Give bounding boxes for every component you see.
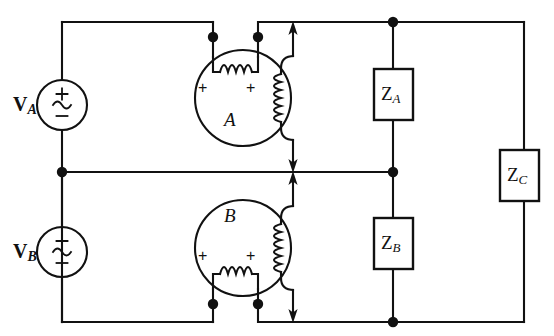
impedance-a-label: ZA [381,84,401,105]
machine-b-coil-lead-right [252,274,258,289]
source-a-sine-icon [53,102,71,109]
junction-dot-mid-zb [388,167,398,177]
machine-b-sec-out-bottom [281,278,293,290]
machine-b-plus-left: + [198,248,207,264]
machine-a-sec-out-top [281,56,293,68]
junction-dot-bot-right-coil [253,299,263,309]
circuit-diagram: VA VB A B + + + + ZA ZB ZC [0,0,554,336]
machine-a-secondary-coil [274,74,281,122]
machine-a-label: A [224,110,236,129]
machine-a-plus-right: + [246,80,255,96]
machine-b-sec-out-top [281,206,293,218]
machine-b-coil-lead-left [213,274,220,289]
junction-dot-top-left-coil [208,32,218,42]
wire-machine-b-right-lead [258,289,393,322]
source-b-plus-icon [57,236,68,247]
source-b-label: VB [13,241,37,264]
junction-dot-bot-left-coil [208,299,218,309]
machine-b-secondary-coil [274,224,281,272]
machine-a-primary-coil [220,65,252,72]
source-a-plus-icon [57,89,68,100]
machine-a-sec-out-bottom [281,128,293,140]
machine-a-plus-left: + [198,80,207,96]
machine-a-coil-lead-right [252,57,258,72]
junction-dot-mid-left [57,167,67,177]
machine-b-plus-right: + [246,248,255,264]
machine-b-body [195,200,291,296]
source-a-label: VA [13,94,37,117]
circuit-svg [0,0,554,336]
machine-b-label: B [224,206,236,225]
wire-machine-a-right-lead [258,22,393,57]
impedance-c-label: ZC [507,165,527,186]
machine-a-coil-lead-left [213,57,220,72]
impedance-b-label: ZB [381,233,401,254]
machine-b-primary-coil [220,267,252,274]
junction-dot-bot-zb [388,317,398,327]
junction-dot-top-za [388,17,398,27]
junction-dot-top-right-coil [253,32,263,42]
machine-a-body [195,50,291,146]
